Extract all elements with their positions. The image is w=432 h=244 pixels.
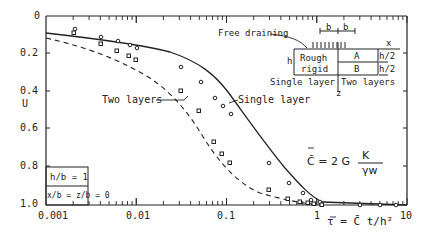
consolidation-chart [0,0,432,244]
x-tick-10: 10 [400,210,412,221]
inset-single-layer: Single layer [270,77,335,87]
y-axis-label: U [22,98,28,109]
x-axis-arrow-label: x [386,38,391,48]
single-layer-label: Single layer [238,94,310,105]
h-label: h [287,56,292,66]
x-tick-0.001: 0.001 [38,210,68,221]
single-layer-markers [73,27,398,207]
y-ticks [46,53,407,166]
y-tick-0: 0 [34,10,40,21]
single-layer-curve [46,33,407,205]
x-tick-0.01: 0.01 [126,210,150,221]
b-label-2: b [343,22,348,32]
y-tick-0.4: 0.4 [20,85,38,96]
y-tick-0.8: 0.8 [20,160,38,171]
inset-two-layers: Two layers [341,77,395,87]
h-half-b: h/2 [379,64,395,74]
formula-denominator: γw [362,164,378,177]
two-layers-label: Two layers [102,94,162,105]
x-ticks [73,16,407,205]
formula-lhs: C̄ = 2 G [307,155,350,168]
y-tick-1.0: 1.0 [20,198,38,209]
h-half-a: h/2 [379,51,395,61]
x-tick-0.1: 0.1 [217,210,235,221]
layer-a-label: A [354,51,359,61]
rough-label: Rough [300,53,327,63]
b-label-1: b [326,22,331,32]
free-draining-label: Free draining [218,28,288,38]
rigid-label: rigid [301,64,328,74]
formula-numerator: K [362,149,369,162]
layer-b-label: B [354,64,359,74]
x-over-b: x/b = z/b = 0 [47,191,110,200]
h-over-b: h/b = 1 [50,172,88,182]
y-tick-0.6: 0.6 [20,122,38,133]
x-tick-1: 1 [314,210,320,221]
y-tick-0.2: 0.2 [20,47,38,58]
z-axis-label: z [336,88,341,98]
x-axis-label: τ = C̄ t/h² [327,215,393,228]
